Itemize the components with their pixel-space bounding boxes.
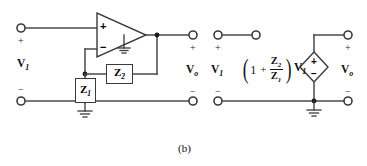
right-input-voltage-label: V1 [211,64,223,78]
figure-caption: (b) [178,142,191,154]
left-input-minus-sign: − [18,85,24,95]
left-output-plus-terminal[interactable] [189,31,197,39]
right-output-minus-sign: − [345,87,351,97]
equation-fraction: Z2 Z1 [269,55,284,84]
right-input-plus-terminal[interactable] [214,31,222,39]
feedback-wire-right [133,35,157,74]
right-input-minus-terminal[interactable] [214,97,222,105]
equation-denominator: Z1 [271,70,282,84]
left-input-plus-terminal[interactable] [17,24,25,32]
right-output-plus-sign: + [345,43,351,53]
figure-container: .w { stroke: #4a4a4a; stroke-width: 1.5;… [0,0,367,166]
right-circuit-ground-symbol [307,101,321,116]
left-input-minus-terminal[interactable] [17,97,25,105]
inverting-input-wire [85,49,97,74]
right-input-minus-sign: − [215,87,221,97]
left-output-minus-sign: − [190,87,196,97]
right-input-plus-sign: + [215,43,221,53]
output-node-dot [155,33,160,38]
impedance-z1-box[interactable]: Z1 [75,78,96,103]
dependent-source-minus-sign: − [311,68,317,79]
equation-open-paren: ( [243,58,249,81]
opamp-noninverting-sign: + [100,20,106,32]
left-input-voltage-label: V1 [17,58,29,72]
equation-one: 1 [250,64,258,76]
right-output-voltage-label: Vo [341,64,353,78]
dependent-source-plus-sign: + [311,56,317,67]
right-output-plus-terminal[interactable] [344,31,352,39]
equation-numerator: Z2 [271,55,282,69]
right-input-open-terminal[interactable] [252,31,260,39]
equation-close-paren: ) [285,58,291,81]
opamp-inverting-sign: − [100,41,106,53]
dependent-source-equation: ( 1 + Z2 Z1 ) V1 [241,55,306,84]
left-output-plus-sign: + [190,43,196,53]
left-input-plus-sign: + [18,36,24,46]
source-top-lead [314,35,344,52]
right-output-minus-terminal[interactable] [344,97,352,105]
equation-multiplier: V1 [293,62,306,76]
left-output-minus-terminal[interactable] [189,97,197,105]
impedance-z2-box[interactable]: Z2 [106,64,133,84]
left-circuit-ground-symbol [78,101,92,117]
left-output-voltage-label: Vo [186,64,198,78]
equation-plus: + [258,64,268,75]
